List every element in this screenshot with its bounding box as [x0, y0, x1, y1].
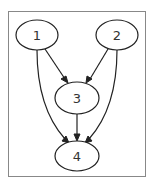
- edge-1-3: [45, 49, 68, 83]
- node-3-label: 3: [73, 91, 81, 106]
- node-1-label: 1: [33, 28, 41, 43]
- edge-2-3: [86, 49, 108, 83]
- node-1: 1: [16, 20, 58, 50]
- node-2-label: 2: [113, 28, 121, 43]
- edge-3-4: [74, 114, 80, 141]
- node-3: 3: [55, 82, 99, 114]
- node-4: 4: [55, 141, 99, 171]
- graph-canvas: 1 2 3 4: [0, 0, 152, 186]
- node-2: 2: [96, 20, 138, 50]
- node-4-label: 4: [73, 149, 81, 164]
